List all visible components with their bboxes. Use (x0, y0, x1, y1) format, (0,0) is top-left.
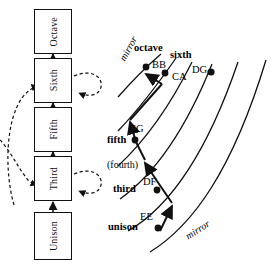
mirror-path-arrow-up-to-ca (130, 84, 162, 120)
arc-label-octave: octave (134, 43, 163, 54)
note-dot-cg[interactable] (132, 137, 139, 144)
note-dot-df[interactable] (154, 187, 161, 194)
arc-label-third: third (113, 184, 136, 195)
diagram-canvas: Octave Sixth Fifth Third Unison (0, 0, 278, 269)
arc-label-fifth: fifth (107, 135, 126, 146)
mirror-path-arrow-unison-to-ee (160, 206, 172, 231)
arc-label-unison: unison (108, 222, 138, 233)
arc-label-sixth: sixth (170, 50, 192, 61)
note-label-ca: CA (172, 72, 187, 83)
note-dot-dg[interactable] (207, 68, 214, 75)
note-dot-bb[interactable] (143, 64, 150, 71)
mirror-path-arrow-fourth-to-cg (136, 142, 145, 160)
note-dot-ee[interactable] (155, 225, 162, 232)
arc-fan-layer (0, 0, 278, 269)
arc-5 (128, 62, 238, 231)
note-dot-ca[interactable] (162, 70, 169, 77)
mirror-path-arrow-ca-to-bb (146, 74, 162, 84)
note-label-dg: DG (192, 65, 207, 76)
note-label-cg: CG (129, 124, 144, 135)
note-label-df: DF (143, 177, 156, 188)
note-label-ee: EE (140, 212, 153, 223)
arc-label-fourth: (fourth) (107, 160, 138, 170)
note-label-bb: BB (152, 60, 166, 71)
